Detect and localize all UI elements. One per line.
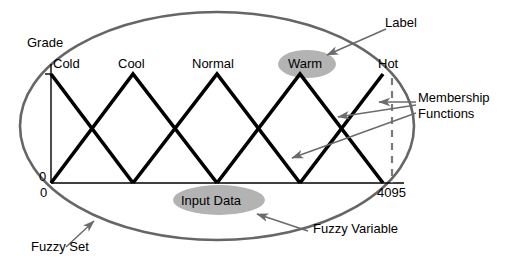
label-callout-arrow bbox=[327, 29, 386, 55]
membership-function-cool bbox=[51, 74, 217, 183]
membership-functions-arrow-3 bbox=[292, 113, 416, 158]
membership-functions-arrow-2 bbox=[338, 105, 416, 117]
x-axis-max-tick-label: 4095 bbox=[377, 186, 406, 199]
term-label-cold: Cold bbox=[53, 57, 80, 70]
diagram-canvas bbox=[0, 0, 508, 273]
membership-function-warm bbox=[217, 74, 383, 183]
y-axis-title: Grade bbox=[27, 36, 63, 49]
membership-function-normal bbox=[133, 74, 300, 183]
x-axis-min-tick-label: 0 bbox=[40, 186, 47, 199]
fuzzy-variable-callout-text: Fuzzy Variable bbox=[313, 222, 398, 235]
term-label-hot: Hot bbox=[378, 57, 398, 70]
input-data-pill-label: Input Data bbox=[181, 194, 241, 207]
fuzzy-set-diagram: Grade 0 0 4095 Cold Cool Normal Warm Hot… bbox=[0, 0, 508, 273]
membership-functions-callout-line2: Functions bbox=[418, 106, 474, 122]
term-label-normal: Normal bbox=[192, 57, 234, 70]
label-callout-text: Label bbox=[385, 16, 417, 29]
fuzzy-set-callout-text: Fuzzy Set bbox=[31, 240, 89, 253]
y-axis-min-tick-label: 0 bbox=[39, 170, 46, 183]
term-label-cool: Cool bbox=[118, 57, 145, 70]
fuzzy-variable-callout-arrow bbox=[257, 214, 308, 231]
term-label-warm: Warm bbox=[288, 57, 322, 70]
membership-functions-callout-line1: Membership bbox=[418, 90, 490, 106]
